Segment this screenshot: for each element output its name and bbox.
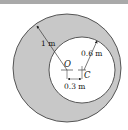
outer-radius-label: 1 m [41,39,55,48]
center-o-label: O [64,59,71,69]
center-c-label: C [84,70,91,80]
offset-label: 0.3 m [64,82,85,91]
inner-radius-label: 0.6 m [81,49,102,58]
disk-with-hole-diagram: 1 m 0.6 m O C 0.3 m [0,0,128,130]
